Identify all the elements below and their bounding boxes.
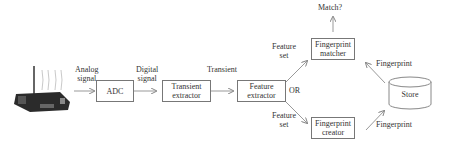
transient-extractor-box: Transient extractor <box>162 80 211 102</box>
feature-set-top-label: Feature set <box>272 42 296 60</box>
analog-label-line1: Analog <box>75 65 99 74</box>
radio-device-icon <box>10 64 72 114</box>
store-cylinder: Store <box>388 76 432 110</box>
fingerprint-creator-box: Fingerprint creator <box>311 117 355 139</box>
fingerprint-creator-line1: Fingerprint <box>315 119 351 128</box>
feature-set-bottom-line2: set <box>272 120 296 129</box>
transient-extractor-line1: Transient <box>172 82 202 91</box>
fingerprint-from-creator-label: Fingerprint <box>376 120 412 129</box>
or-label: OR <box>289 86 300 95</box>
fingerprint-creator-line2: creator <box>315 128 351 137</box>
store-label: Store <box>388 90 432 99</box>
feature-extractor-line2: extractor <box>247 91 275 100</box>
transient-label: Transient <box>207 65 237 74</box>
fingerprint-to-matcher-label: Fingerprint <box>376 59 412 68</box>
fingerprint-matcher-line2: matcher <box>315 49 351 58</box>
feature-set-bottom-label: Feature set <box>272 111 296 129</box>
match-label: Match? <box>318 3 342 12</box>
digital-label-line2: signal <box>136 74 158 83</box>
feature-set-top-line1: Feature <box>272 42 296 51</box>
digital-signal-label: Digital signal <box>136 65 158 83</box>
feature-set-bottom-line1: Feature <box>272 111 296 120</box>
feature-extractor-line1: Feature <box>247 82 275 91</box>
feature-extractor-box: Feature extractor <box>237 80 286 102</box>
adc-box: ADC <box>96 80 134 102</box>
adc-label: ADC <box>107 87 124 96</box>
fingerprint-matcher-box: Fingerprint matcher <box>311 38 355 60</box>
transient-extractor-line2: extractor <box>172 91 202 100</box>
digital-label-line1: Digital <box>136 65 158 74</box>
fingerprint-matcher-line1: Fingerprint <box>315 40 351 49</box>
feature-set-top-line2: set <box>272 51 296 60</box>
